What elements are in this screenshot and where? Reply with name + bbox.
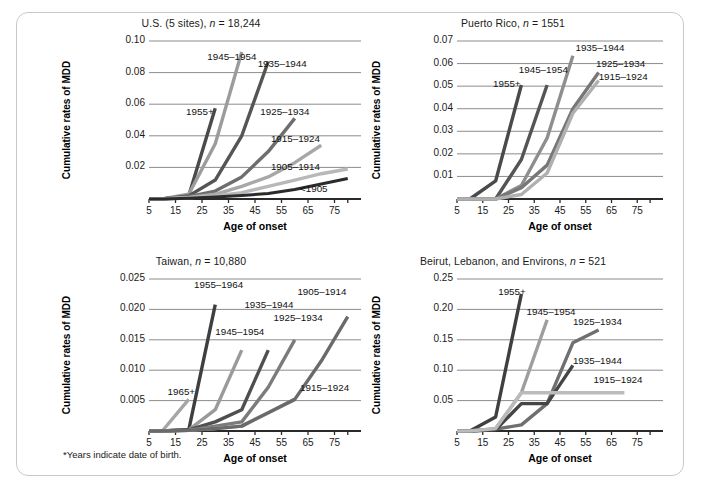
y-tick-label: 0.05 [411,79,453,90]
x-tick-label: 5 [443,437,471,448]
y-tick-label: 0.07 [411,34,453,45]
x-tick-label: 15 [469,437,497,448]
series-annotation: 1945–1954 [519,64,568,75]
x-tick-label: 35 [520,437,548,448]
y-tick-label: 0.02 [411,147,453,158]
series-annotation: 1925–1934 [260,106,309,117]
series-annotation: 1955+ [186,106,214,117]
x-tick-label: 5 [135,437,163,448]
series-annotation: 1925–1934 [596,58,645,69]
series-annotation: 1935–1944 [244,299,293,310]
x-tick-label: 5 [443,205,471,216]
figure-footnote: *Years indicate date of birth. [63,449,181,460]
x-axis-label: Age of onset [457,220,663,232]
y-tick-label: 0.05 [411,394,453,405]
y-tick-label: 0.03 [411,124,453,135]
series-line [457,365,573,431]
y-tick-label: 0.10 [411,363,453,374]
x-tick-label: 45 [546,437,574,448]
x-tick-label: 25 [188,437,216,448]
x-tick-label: 55 [268,437,296,448]
series-annotation: 1935–1944 [573,355,622,366]
y-tick-label: 0.04 [103,129,145,140]
x-tick-label: 25 [495,437,523,448]
x-tick-label: 65 [598,437,626,448]
series-line [149,305,215,431]
y-tick-label: 0.04 [411,102,453,113]
x-tick-label: 45 [546,205,574,216]
series-annotation: 1935–1944 [258,58,307,69]
x-tick-label: 65 [294,437,322,448]
panel-beirut: Beirut, Lebanon, and Environs, n = 521Cu… [357,255,669,475]
series-annotation: 1905–1914 [271,161,320,172]
figure-container: U.S. (5 sites), n = 18,244Cumulative rat… [16,12,684,476]
series-annotation: 1915–1924 [271,133,320,144]
y-tick-label: 0.15 [411,333,453,344]
series-line [457,85,547,199]
x-tick-label: 55 [572,437,600,448]
x-axis-label: Age of onset [457,452,663,464]
series-annotation: 1945–1954 [215,326,264,337]
x-tick-label: 25 [495,205,523,216]
x-tick-label: 15 [162,205,190,216]
series-annotation: 1945–1954 [527,306,576,317]
y-tick-label: 0.02 [103,160,145,171]
y-tick-label: 0.020 [103,302,145,313]
series-annotation: 1945–1954 [207,51,256,62]
series-line [457,330,599,431]
panel-us: U.S. (5 sites), n = 18,244Cumulative rat… [47,17,355,242]
x-tick-label: 45 [241,437,269,448]
series-annotation: 1955+ [498,286,526,297]
x-tick-label: 15 [162,437,190,448]
series-annotation: 1925–1934 [573,316,622,327]
x-tick-label: 65 [598,205,626,216]
x-tick-label: 75 [321,437,349,448]
series-line [149,399,189,431]
series-annotation: 1915–1924 [599,71,648,82]
series-annotation: 1915–1924 [300,382,349,393]
series-annotation: 1915–1924 [593,374,642,385]
x-tick-label: 35 [520,205,548,216]
x-tick-label: 15 [469,205,497,216]
series-annotation: 1965+ [168,386,196,397]
series-annotation: 1955–1964 [194,279,243,290]
y-tick-label: 0.06 [103,97,145,108]
panel-taiwan: Taiwan, n = 10,880Cumulative rates of MD… [47,255,355,475]
y-tick-label: 0.08 [103,66,145,77]
y-tick-label: 0.005 [103,394,145,405]
series-annotation: 1955+ [493,78,521,89]
x-axis-label: Age of onset [149,220,361,232]
y-tick-label: 0.010 [103,363,145,374]
series-annotation: 1935–1944 [575,42,624,53]
series-line [457,85,521,199]
x-tick-label: 55 [268,205,296,216]
x-tick-label: 45 [241,205,269,216]
x-tick-label: 75 [623,437,651,448]
series-annotation: 1925–1934 [274,312,323,323]
x-tick-label: 35 [215,437,243,448]
x-tick-label: 55 [572,205,600,216]
y-tick-label: 0.06 [411,57,453,68]
x-tick-label: 25 [188,205,216,216]
y-tick-label: 0.025 [103,272,145,283]
x-tick-label: 65 [294,205,322,216]
y-tick-label: 0.01 [411,169,453,180]
x-tick-label: 75 [321,205,349,216]
x-tick-label: 75 [623,205,651,216]
y-tick-label: 0.015 [103,333,145,344]
series-annotation: <1905 [300,183,328,194]
y-tick-label: 0.10 [103,34,145,45]
y-tick-label: 0.25 [411,272,453,283]
x-tick-label: 35 [215,205,243,216]
y-tick-label: 0.20 [411,302,453,313]
x-tick-label: 5 [135,205,163,216]
panel-puerto-rico: Puerto Rico, n = 1551Cumulative rates of… [357,17,669,242]
series-line [457,294,521,431]
series-annotation: 1905–1914 [297,286,346,297]
